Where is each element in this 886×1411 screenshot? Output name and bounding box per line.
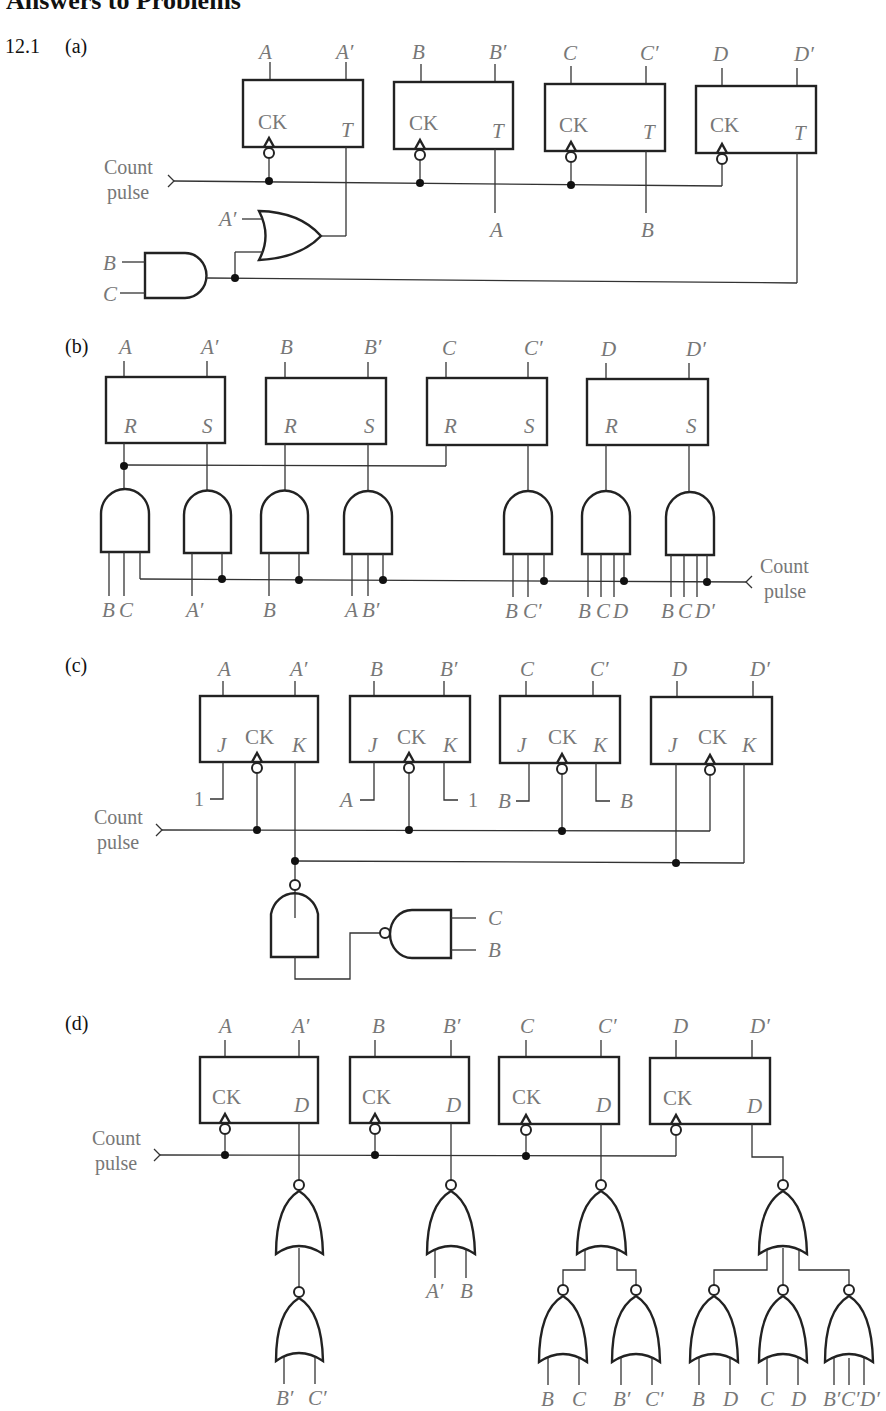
svg-text:D: D [293,1093,309,1117]
part-c-label: (c) [65,654,87,677]
svg-text:K: K [291,733,307,757]
svg-text:D: D [595,1093,611,1117]
flip-flop-c: C C′ R S [427,336,547,445]
svg-text:pulse: pulse [107,181,149,204]
svg-text:B: B [578,599,591,623]
svg-text:B: B [488,938,501,962]
svg-text:K: K [741,733,757,757]
part-b-rs-flip-flop-counter: (b) A A′ R S B B′ R S C C′ R S [65,335,809,623]
svg-text:R: R [604,414,618,438]
and-gate [344,491,392,554]
svg-text:C: C [760,1387,775,1411]
count-pulse-label: Count [94,806,143,828]
svg-text:CK: CK [245,725,274,749]
flip-flop-b: B B′ J CK K A 1 [338,657,478,830]
flip-flop-b: B B′ CK T A [394,40,513,242]
svg-text:T: T [492,119,505,143]
svg-text:C: C [678,599,693,623]
svg-text:B′: B′ [823,1387,841,1411]
flip-flop-d: D D′ CK T [696,42,816,283]
svg-text:C′: C′ [841,1387,860,1411]
svg-text:C: C [119,598,134,622]
svg-text:CK: CK [362,1085,391,1109]
and-gate [101,489,149,552]
svg-text:CK: CK [663,1086,692,1110]
and-gate [582,491,630,554]
svg-text:C: C [520,657,535,681]
flip-flop-d: D D′ R S [587,337,708,445]
svg-text:S: S [202,414,213,438]
svg-text:T: T [341,118,354,142]
svg-text:S: S [524,414,535,438]
svg-text:B′: B′ [443,1014,461,1038]
part-d-label: (d) [65,1012,88,1035]
nand-gate-horizontal: C B [380,906,503,962]
svg-text:CK: CK [409,111,438,135]
svg-text:A′: A′ [217,207,237,231]
svg-text:B: B [280,335,293,359]
svg-text:B′: B′ [613,1387,631,1411]
svg-text:C′: C′ [640,41,659,65]
svg-text:D′: D′ [694,599,715,623]
svg-text:A: A [257,40,272,64]
svg-text:D′: D′ [685,337,706,361]
svg-text:A: A [488,218,503,242]
svg-text:C: C [563,41,578,65]
problem-number: 12.1 [5,35,40,57]
svg-text:C′: C′ [598,1014,617,1038]
svg-text:A′: A′ [199,335,219,359]
svg-text:C′: C′ [524,336,543,360]
svg-text:C: C [442,336,457,360]
svg-text:C′: C′ [308,1386,327,1410]
svg-text:pulse: pulse [97,831,139,854]
svg-text:B: B [498,789,511,813]
svg-text:CK: CK [698,725,727,749]
svg-text:D′: D′ [793,42,814,66]
svg-text:D: D [671,657,687,681]
svg-text:D: D [722,1387,738,1411]
flip-flop-c: C C′ CK T B [545,41,665,242]
svg-text:B: B [641,218,654,242]
svg-text:S: S [686,414,697,438]
svg-text:pulse: pulse [764,580,806,603]
svg-text:D: D [445,1093,461,1117]
nor-gate: A′ B [424,1180,475,1303]
svg-text:1: 1 [468,789,478,811]
part-a-t-flip-flop-counter: 12.1 (a) A A′ CK T B B′ CK T [5,35,816,306]
svg-text:T: T [643,120,656,144]
svg-text:CK: CK [559,113,588,137]
count-pulse-label: Count [104,156,153,178]
nor-gate: B C [539,1285,587,1411]
part-b-label: (b) [65,335,88,358]
svg-text:B: B [372,1014,385,1038]
svg-text:D: D [746,1094,762,1118]
svg-text:CK: CK [548,725,577,749]
svg-text:C: C [103,282,118,306]
svg-text:B: B [692,1387,705,1411]
count-pulse-label: Count [92,1127,141,1149]
svg-text:CK: CK [512,1085,541,1109]
flip-flop-d: D D′ CK D [650,1014,783,1180]
nor-gate [563,1180,636,1285]
svg-text:C′: C′ [590,657,609,681]
svg-text:D′: D′ [749,1014,770,1038]
and-gate [184,490,231,553]
svg-text:A: A [338,788,353,812]
svg-text:1: 1 [194,788,204,810]
or-gate: A′ [217,207,346,278]
and-gate: B C [103,251,797,306]
nor-gate: B′ C′ [612,1285,664,1411]
svg-text:A′: A′ [288,657,308,681]
svg-text:B: B [541,1387,554,1411]
nor-gate: B′ C′ [276,1287,327,1410]
svg-text:R: R [123,414,137,438]
svg-text:A′: A′ [184,598,204,622]
and-gate [504,491,552,554]
svg-text:D′: D′ [859,1387,880,1411]
svg-text:C: C [488,906,503,930]
svg-text:C′: C′ [645,1387,664,1411]
svg-text:D: D [600,337,616,361]
svg-text:B: B [102,598,115,622]
svg-text:A: A [217,1014,232,1038]
svg-text:B′: B′ [276,1386,294,1410]
